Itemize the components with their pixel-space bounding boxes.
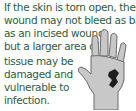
caption-line: If the skin is torn open, the	[4, 1, 136, 14]
caption-line: infection.	[4, 94, 49, 107]
caption-line: vulnerable to	[4, 81, 69, 94]
hand-wound-illustration	[78, 28, 136, 110]
caption-line: damaged and	[4, 68, 73, 81]
hand-icon	[78, 30, 126, 111]
caption-line: tissue may be	[4, 55, 73, 68]
caption-line: wound may not bleed as badly	[4, 14, 136, 27]
